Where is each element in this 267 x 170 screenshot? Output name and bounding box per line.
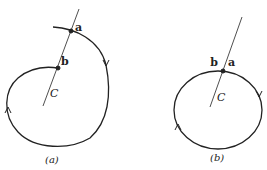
- label-b: b: [61, 55, 69, 68]
- closed-orbit: [174, 71, 262, 149]
- caption-a: (a): [45, 154, 59, 165]
- figure: a b C (a) b a C (b): [0, 0, 267, 170]
- panel-b: [174, 17, 262, 149]
- diagram-canvas: a b C (a) b a C (b): [0, 0, 267, 170]
- label-a: a: [228, 56, 235, 69]
- point-b: [56, 66, 60, 70]
- label-c: C: [50, 87, 59, 100]
- caption-b: (b): [210, 152, 224, 163]
- label-c: C: [217, 91, 226, 104]
- panel-a: [5, 9, 109, 146]
- point-a: [69, 29, 73, 33]
- label-b: b: [210, 56, 218, 69]
- point-ab: [221, 69, 225, 73]
- label-a: a: [75, 21, 82, 34]
